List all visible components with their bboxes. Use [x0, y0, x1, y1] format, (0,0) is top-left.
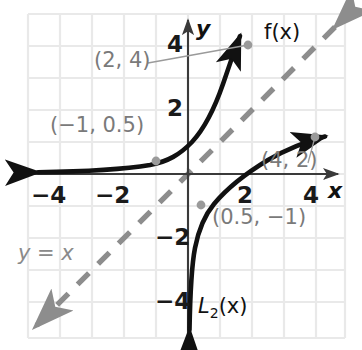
graph-figure: −4 −2 2 4 4 2 −2 −4 y x (2, 4) (−1, 0.5)…: [0, 0, 362, 350]
x-tick-label-neg2: −2: [95, 184, 130, 207]
point-4-2: [311, 133, 320, 142]
point-2-4: [244, 41, 253, 50]
annotation-point-2-4: (2, 4): [94, 50, 150, 71]
line-label-y-equals-x: y = x: [18, 243, 74, 264]
y-tick-label-neg2: −2: [155, 226, 190, 249]
annotation-point-4-2: (4, 2): [261, 150, 317, 171]
x-tick-label-4: 4: [303, 184, 319, 207]
x-tick-label-2: 2: [237, 184, 253, 207]
y-tick-label-4: 4: [167, 33, 183, 56]
annotation-point-neg1-half: (−1, 0.5): [50, 115, 144, 136]
y-axis-name: y: [196, 18, 210, 40]
curve-label-f-of-x: f(x): [264, 22, 300, 43]
x-tick-label-neg4: −4: [31, 184, 66, 207]
y-tick-label-2: 2: [167, 97, 183, 120]
curve-label-l2-of-x: L2(x): [198, 296, 247, 320]
l2-label-letter: L: [198, 294, 210, 318]
y-tick-label-neg4: −4: [155, 290, 190, 313]
x-axis-name: x: [328, 180, 342, 202]
point-neg1-0.5: [152, 157, 161, 166]
line-y-equals-x: [35, 27, 335, 327]
annotation-point-half-neg1: (0.5, −1): [212, 207, 306, 228]
l2-label-tail: (x): [219, 294, 248, 318]
point-0.5-neg1: [197, 201, 206, 210]
l2-label-subscript: 2: [210, 305, 219, 321]
